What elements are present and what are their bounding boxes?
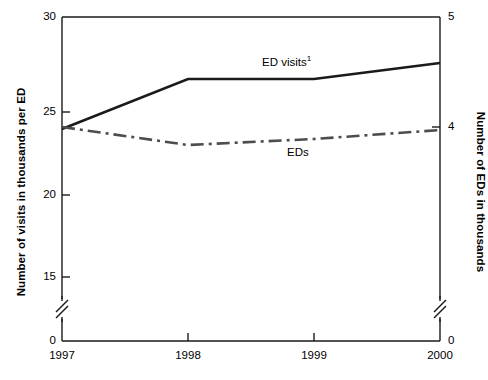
y-tick-label-left-0: 0 [16, 334, 56, 346]
series-annotation-eds: EDs [287, 146, 309, 158]
x-axis-ticks [188, 333, 314, 341]
chart-figure: Number of visits in thousands per ED Num… [0, 0, 488, 380]
x-tick-label-2000: 2000 [410, 349, 470, 361]
series-annotation-ed-visits-footnote: 1 [307, 54, 311, 63]
series-line-ed-visits [62, 63, 440, 129]
x-tick-label-1998: 1998 [158, 349, 218, 361]
series-line-eds [62, 127, 440, 145]
axis-break-right [434, 296, 446, 322]
y-tick-label-right-4: 4 [448, 120, 488, 132]
series-annotation-ed-visits-text: ED visits [262, 56, 307, 68]
y-tick-label-right-0: 0 [448, 334, 488, 346]
y-tick-label-left-20: 20 [16, 188, 56, 200]
y-axis-right-title: Number of EDs in thousands [475, 67, 487, 317]
x-tick-label-1999: 1999 [284, 349, 344, 361]
chart-plot-area [0, 0, 488, 380]
axis-spines [62, 17, 440, 341]
y-tick-label-left-15: 15 [16, 270, 56, 282]
series-annotation-ed-visits: ED visits1 [262, 54, 311, 68]
y-axis-left-ticks [62, 112, 70, 277]
y-tick-label-right-5: 5 [448, 10, 488, 22]
y-tick-label-left-25: 25 [16, 105, 56, 117]
axis-break-left [56, 296, 68, 322]
x-tick-label-1997: 1997 [32, 349, 92, 361]
y-tick-label-left-30: 30 [16, 10, 56, 22]
